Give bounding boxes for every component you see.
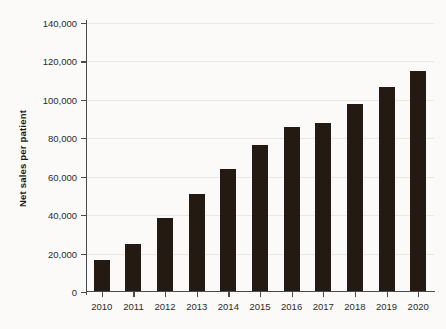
x-tick-label: 2019 [376,301,397,312]
y-axis-title: Net sales per patient [13,0,33,329]
bar [94,260,110,291]
y-axis-title-label: Net sales per patient [18,110,29,207]
x-tick-label: 2017 [313,301,334,312]
x-tick-mark [418,292,419,297]
x-tick-mark [165,292,166,297]
bar [347,104,363,291]
x-tick-label: 2013 [186,301,207,312]
y-tick-label: 60,000 [48,171,77,182]
bar [410,71,426,290]
x-tick-mark [197,292,198,297]
gridline [86,23,434,24]
x-tick-mark [260,292,261,297]
x-tick-label: 2015 [249,301,270,312]
bar [220,169,236,290]
bar [125,244,141,291]
x-tick-label: 2018 [344,301,365,312]
bar [157,218,173,290]
x-tick-mark [355,292,356,297]
y-tick-label: 120,000 [43,56,77,67]
y-tick-label: 20,000 [48,248,77,259]
bar [284,127,300,291]
x-tick-mark [228,292,229,297]
y-tick-label: 80,000 [48,133,77,144]
x-tick-label: 2011 [123,301,143,312]
x-tick-mark [323,292,324,297]
y-tick-label: 0 [72,287,77,298]
x-tick-label: 2016 [281,301,302,312]
bar [189,194,205,291]
x-tick-mark [387,292,388,297]
x-tick-label: 2014 [218,301,239,312]
y-tick-label: 40,000 [48,210,77,221]
x-tick-label: 2012 [155,301,176,312]
y-tick-label: 140,000 [43,18,77,29]
bar [379,87,395,291]
bar [252,145,268,290]
bar-chart: Net sales per patient 020,00040,00060,00… [0,0,446,329]
x-tick-mark [133,292,134,297]
bar [315,123,331,290]
x-tick-mark [292,292,293,297]
x-tick-mark [102,292,103,297]
y-tick-label: 100,000 [43,94,77,105]
y-axis-line [86,20,87,295]
x-tick-label: 2010 [91,301,112,312]
plot-area: 020,00040,00060,00080,000100,000120,0001… [86,23,434,292]
x-axis-line [86,291,435,292]
gridline [86,61,434,62]
x-tick-label: 2020 [408,301,429,312]
